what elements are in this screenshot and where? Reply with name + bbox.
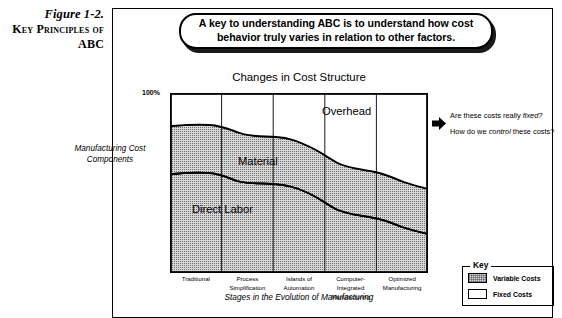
- band-label-material: Material: [238, 155, 278, 167]
- figure-number: Figure 1-2.: [0, 6, 104, 22]
- band-label-direct-labor: Direct Labor: [192, 203, 253, 215]
- callout-text: A key to understanding ABC is to underst…: [191, 17, 481, 44]
- figure-title: Key Principles of ABC: [0, 22, 104, 53]
- legend-swatch-fixed-icon: [468, 289, 487, 299]
- chart-plot-area: [170, 93, 428, 273]
- callout-box: A key to understanding ABC is to underst…: [179, 13, 493, 49]
- annotation-question-1: Are these costs really fixed?: [450, 112, 556, 120]
- y-axis-max-label: 100%: [142, 89, 160, 96]
- legend-item-fixed-costs: Fixed Costs: [468, 289, 532, 299]
- legend-title: Key: [470, 260, 491, 270]
- cost-structure-area-chart: [170, 93, 428, 273]
- legend-box: [462, 266, 554, 306]
- annotation-question-2: How do we control these costs?: [450, 128, 556, 136]
- legend-swatch-variable-icon: [468, 273, 487, 283]
- y-axis-title: Manufacturing Cost Components: [64, 144, 156, 165]
- figure-caption: Figure 1-2. Key Principles of ABC: [0, 6, 104, 53]
- legend-item-variable-costs: Variable Costs: [468, 273, 541, 283]
- annotation-questions: Are these costs really fixed? How do we …: [450, 112, 556, 144]
- legend-label-fixed: Fixed Costs: [493, 291, 532, 298]
- band-label-overhead: Overhead: [322, 105, 371, 117]
- chart-title: Changes in Cost Structure: [170, 71, 428, 83]
- legend-label-variable: Variable Costs: [493, 275, 541, 282]
- x-axis-title: Stages in the Evolution of Manufacturing: [170, 292, 428, 302]
- right-arrow-icon: [432, 116, 446, 129]
